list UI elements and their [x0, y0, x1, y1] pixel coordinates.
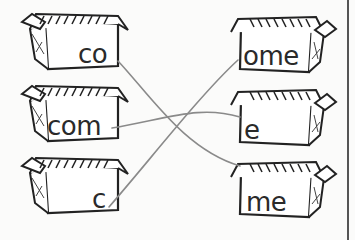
word-part-com: com [47, 113, 101, 139]
box-left-3 [22, 158, 128, 213]
box-left-1 [22, 14, 128, 69]
word-part-co: co [78, 41, 107, 67]
connector-c-ome [109, 60, 238, 207]
word-part-ome: ome [243, 43, 299, 69]
word-part-e: e [244, 117, 260, 143]
word-part-me: me [246, 189, 286, 215]
word-part-c: c [92, 186, 106, 212]
page-edge-divider [347, 0, 349, 240]
